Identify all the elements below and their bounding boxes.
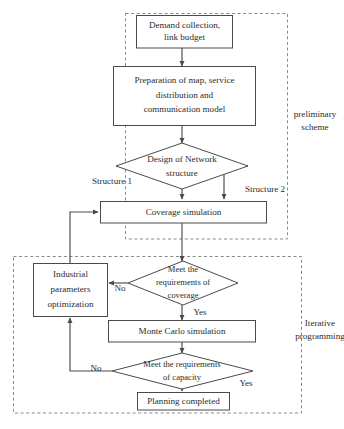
group-label-preliminary-line2: scheme — [301, 122, 328, 132]
edge-label-structure-1: Structure 1 — [92, 176, 132, 186]
group-label-iterative-line2: programming — [295, 331, 344, 341]
group-label-preliminary-line1: preliminary — [294, 109, 337, 119]
node-coverage-simulation: Coverage simulation — [101, 202, 267, 224]
node-preparation-line1: Preparation of map, service — [135, 75, 235, 85]
node-preparation-line3: communication model — [144, 104, 226, 114]
node-design-line2: structure — [166, 168, 198, 178]
node-capacity-check-line1: Meet the requirements — [143, 359, 221, 369]
group-label-preliminary-scheme: preliminary scheme — [294, 109, 337, 132]
node-industrial-line1: Industrial — [53, 269, 88, 279]
node-preparation: Preparation of map, service distribution… — [114, 67, 256, 126]
node-design-line1: Design of Network — [147, 154, 217, 164]
node-design-of-network-structure: Design of Network structure — [116, 143, 248, 189]
edge-label-coverage-yes: Yes — [193, 307, 207, 317]
edge-label-coverage-no: No — [114, 283, 126, 293]
node-capacity-check-line2: of capacity — [163, 372, 202, 382]
edge-label-capacity-yes: Yes — [239, 378, 253, 388]
node-capacity-requirements-check: Meet the requirements of capacity — [112, 353, 253, 389]
edge-industrial-to-coverage-sim — [70, 212, 98, 263]
flowchart-svg: Demand collection, link budget Preparati… — [0, 0, 344, 429]
node-coverage-check-line1: Meet the — [168, 264, 198, 274]
node-monte-carlo-label: Monte Carlo simulation — [139, 326, 226, 336]
node-planning-completed-label: Planning completed — [147, 396, 220, 406]
node-coverage-requirements-check: Meet the requirements of coverage — [128, 261, 238, 305]
node-preparation-line2: distribution and — [156, 90, 214, 100]
node-demand-collection-line1: Demand collection, — [149, 20, 220, 30]
node-coverage-simulation-label: Coverage simulation — [146, 207, 222, 217]
node-coverage-check-line2: requirements of — [156, 277, 210, 287]
node-industrial-line3: optimization — [48, 299, 94, 309]
node-planning-completed: Planning completed — [138, 393, 230, 411]
flowchart-canvas: Demand collection, link budget Preparati… — [0, 0, 344, 429]
node-demand-collection-line2: link budget — [164, 32, 206, 42]
node-demand-collection: Demand collection, link budget — [137, 16, 233, 49]
group-label-iterative-line1: Iterative — [305, 318, 335, 328]
node-industrial-line2: parameters — [51, 284, 91, 294]
node-industrial-parameters-optimization: Industrial parameters optimization — [34, 264, 108, 317]
edge-label-capacity-no: No — [90, 363, 102, 373]
edge-label-structure-2: Structure 2 — [245, 184, 286, 194]
group-label-iterative-programming: Iterative programming — [295, 318, 344, 341]
node-coverage-check-line3: coverage — [167, 290, 198, 300]
node-monte-carlo-simulation: Monte Carlo simulation — [109, 321, 256, 343]
